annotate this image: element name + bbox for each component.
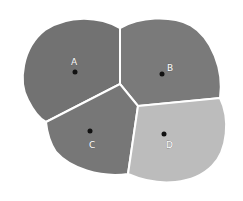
label-b: B	[167, 63, 173, 73]
voronoi-diagram: A B C D	[0, 0, 243, 201]
label-a: A	[71, 57, 78, 67]
site-a-dot	[73, 70, 78, 75]
site-c-dot	[88, 129, 93, 134]
label-d: D	[166, 140, 173, 150]
label-c: C	[89, 140, 95, 150]
site-b-dot	[160, 72, 165, 77]
region-d	[128, 98, 226, 182]
site-d-dot	[162, 132, 167, 137]
